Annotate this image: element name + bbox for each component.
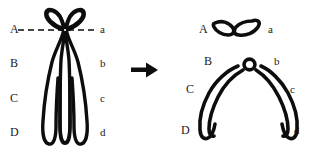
label-right-C: C <box>186 83 194 95</box>
label-left-b: b <box>100 58 106 69</box>
chiasma-centre-hole <box>64 29 66 31</box>
label-left-D: D <box>10 126 19 138</box>
fragment-loop-right <box>234 20 259 35</box>
chromosome-diagram-svg <box>0 0 312 161</box>
label-right-d: d <box>294 125 300 136</box>
label-left-d: d <box>100 127 106 138</box>
label-left-B: B <box>10 57 18 69</box>
label-left-C: C <box>10 92 18 104</box>
label-right-b: b <box>274 56 280 67</box>
label-left-A: A <box>10 23 19 35</box>
transformation-arrow-icon <box>131 63 158 78</box>
label-left-a: a <box>100 24 105 35</box>
figure-canvas: A B C D a b c d A a B C D b c d <box>0 0 312 161</box>
label-fragment-a: a <box>268 24 273 35</box>
label-right-c: c <box>290 84 295 95</box>
label-right-B: B <box>204 55 212 67</box>
centromere-hole <box>246 61 253 68</box>
fragment-loop-left <box>213 22 233 35</box>
label-fragment-A: A <box>199 23 208 35</box>
label-right-D: D <box>181 124 190 136</box>
label-left-c: c <box>100 93 105 104</box>
inverted-v-chromosome-group <box>200 57 297 138</box>
detached-fragment-group <box>213 20 259 35</box>
